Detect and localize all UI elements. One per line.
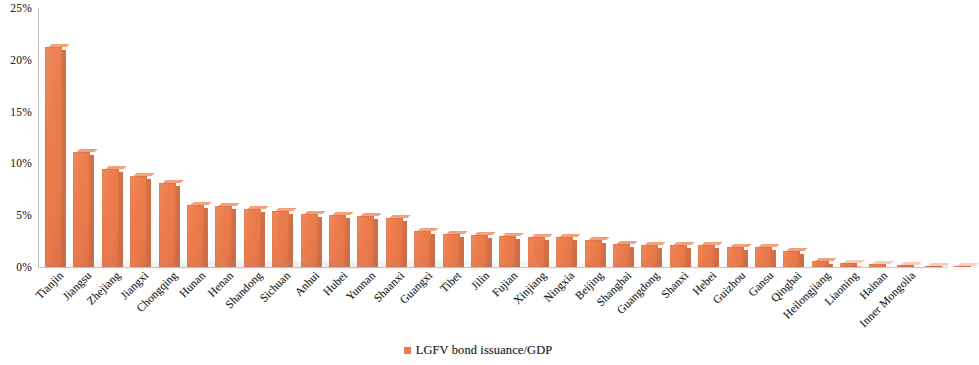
bar	[187, 205, 204, 267]
bar	[812, 261, 829, 267]
bar-slot	[613, 8, 634, 267]
bar-slot	[244, 8, 265, 267]
bar-slot	[812, 8, 833, 267]
bar	[925, 266, 942, 267]
bar-slot	[840, 8, 861, 267]
bar-slot	[954, 8, 975, 267]
bar	[471, 235, 488, 267]
bar-slot	[727, 8, 748, 267]
bar	[414, 231, 431, 267]
y-axis-tick-label: 5%	[16, 209, 32, 221]
y-axis-tick-label: 0%	[16, 261, 32, 273]
bar-slot	[215, 8, 236, 267]
x-axis-tick-label: Hunan	[177, 269, 208, 300]
bar-slot	[130, 8, 151, 267]
bar-slot	[869, 8, 890, 267]
bar-slot	[528, 8, 549, 267]
bar	[613, 244, 630, 267]
y-axis-tick-label: 15%	[10, 106, 32, 118]
bar	[556, 237, 573, 267]
bar	[386, 218, 403, 267]
bar-slot	[670, 8, 691, 267]
chart-legend: LGFV bond issuance/GDP	[0, 343, 956, 358]
x-axis-tick-label: Jilin	[469, 269, 492, 292]
legend-swatch-icon	[404, 347, 411, 354]
bar	[159, 183, 176, 267]
bar	[840, 263, 857, 267]
bar	[301, 214, 318, 267]
bar	[897, 265, 914, 267]
bar-slot	[443, 8, 464, 267]
bar-slot	[357, 8, 378, 267]
plot-area	[40, 8, 948, 267]
bar-slot	[159, 8, 180, 267]
x-axis-tick-label: Sichuan	[257, 269, 292, 304]
bar-slot	[414, 8, 435, 267]
bar	[528, 237, 545, 267]
bar	[869, 264, 886, 267]
bar-slot	[585, 8, 606, 267]
legend-label: LGFV bond issuance/GDP	[416, 343, 553, 358]
bar-slot	[755, 8, 776, 267]
bar	[45, 47, 62, 267]
bar-slot	[499, 8, 520, 267]
x-axis-tick-label: Anhui	[292, 269, 321, 298]
bar	[130, 176, 147, 267]
bar	[585, 240, 602, 267]
y-axis-line	[38, 8, 39, 268]
y-axis-tick-label: 10%	[10, 157, 32, 169]
bar	[954, 266, 971, 267]
bar	[329, 215, 346, 267]
y-axis-tick-label: 25%	[10, 2, 32, 14]
bar-slot	[301, 8, 322, 267]
bar-slot	[329, 8, 350, 267]
x-axis-line	[38, 267, 948, 268]
bar-slot	[925, 8, 946, 267]
x-axis-tick-label: Tibet	[437, 269, 463, 295]
bar	[670, 245, 687, 267]
bar-slot	[897, 8, 918, 267]
bar-slot	[102, 8, 123, 267]
bar-slot	[272, 8, 293, 267]
bar	[641, 245, 658, 267]
y-axis: 0%5%10%15%20%25%	[0, 0, 36, 365]
bar-slot	[45, 8, 66, 267]
bar-slot	[73, 8, 94, 267]
bar-slot	[386, 8, 407, 267]
y-axis-tick-label: 20%	[10, 54, 32, 66]
bar	[73, 152, 90, 267]
bar	[357, 216, 374, 267]
x-axis-tick-label: Tianjin	[33, 269, 65, 301]
bar	[244, 209, 261, 267]
x-axis: TianjinJiangsuZhejiangJiangxiChongqingHu…	[40, 269, 948, 339]
bar	[499, 236, 516, 267]
x-axis-tick-label: Shanxi	[659, 269, 690, 300]
bar	[698, 245, 715, 267]
bar	[272, 211, 289, 267]
bar-slot	[471, 8, 492, 267]
bar-slot	[556, 8, 577, 267]
bar	[443, 234, 460, 267]
bar	[102, 169, 119, 267]
bar-slot	[698, 8, 719, 267]
bar-slot	[783, 8, 804, 267]
bar-slot	[641, 8, 662, 267]
bar	[215, 206, 232, 267]
bar-slot	[187, 8, 208, 267]
bar	[727, 247, 744, 267]
x-axis-tick-label: Ningxia	[541, 269, 576, 304]
bar	[783, 251, 800, 267]
bar	[755, 247, 772, 267]
